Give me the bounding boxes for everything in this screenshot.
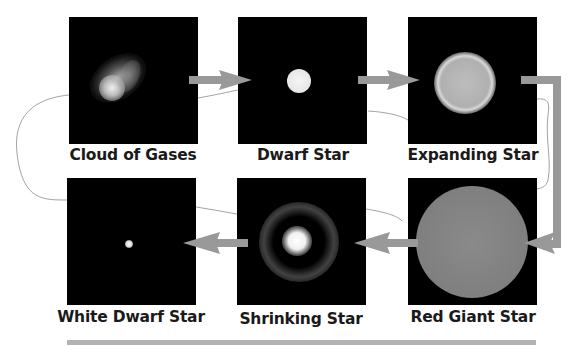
pencil-line (368, 111, 408, 120)
arrow-elbow-down-icon (521, 76, 561, 254)
arrow-left-icon (354, 232, 418, 254)
pencil-line (366, 209, 402, 221)
pencil-line (537, 99, 549, 189)
pencil-line (17, 95, 69, 200)
arrow-left-icon (183, 232, 248, 254)
pencil-line (196, 207, 237, 214)
arrows-layer (0, 0, 580, 346)
arrow-right-icon (189, 70, 252, 90)
pencil-line (198, 90, 238, 98)
arrow-right-icon (358, 70, 420, 90)
